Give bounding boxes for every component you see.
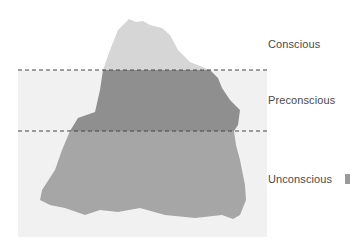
iceberg-illustration [0,0,353,245]
label-conscious: Conscious [268,38,320,50]
conscious-region [0,0,353,70]
label-preconscious: Preconscious [268,94,335,106]
page-edge-mark [345,174,350,184]
label-unconscious: Unconscious [268,173,332,185]
